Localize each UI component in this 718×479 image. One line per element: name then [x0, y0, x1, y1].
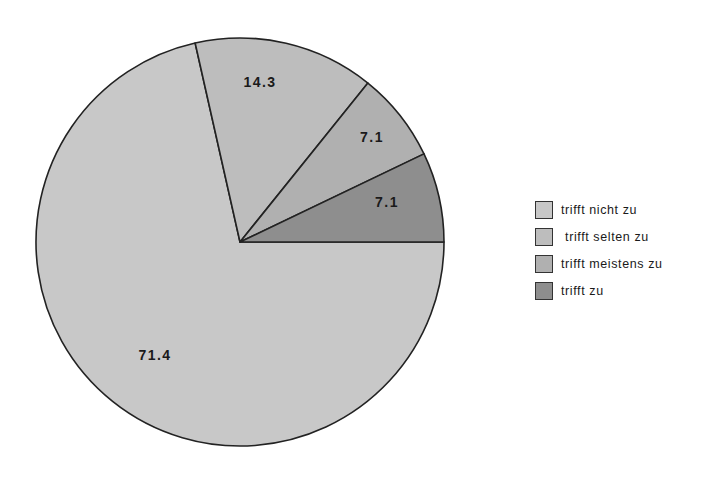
legend-label: trifft meistens zu [561, 257, 663, 271]
legend-label: trifft selten zu [561, 230, 649, 244]
legend-swatch [535, 201, 553, 219]
slice-value-label: 7.1 [375, 194, 399, 210]
legend-item-trifft-zu: trifft zu [535, 277, 663, 304]
legend-label: trifft zu [561, 284, 604, 298]
legend-item-trifft-nicht-zu: trifft nicht zu [535, 196, 663, 223]
slice-value-label: 71.4 [138, 347, 171, 363]
legend-swatch [535, 282, 553, 300]
legend-item-trifft-selten-zu: trifft selten zu [535, 223, 663, 250]
legend-item-trifft-meistens-zu: trifft meistens zu [535, 250, 663, 277]
legend-label: trifft nicht zu [561, 203, 637, 217]
slice-value-label: 7.1 [360, 129, 384, 145]
legend-swatch [535, 228, 553, 246]
slice-value-label: 14.3 [243, 74, 276, 90]
legend: trifft nicht zu trifft selten zu trifft … [535, 196, 663, 304]
legend-swatch [535, 255, 553, 273]
